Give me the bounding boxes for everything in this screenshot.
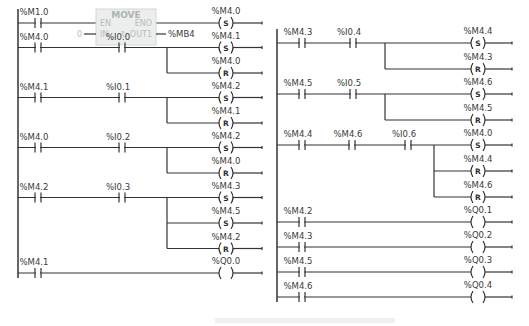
rung: %M4.4%M4.6%I0.6S%M4.0R%M4.4R%M4.6 [277, 128, 512, 203]
coil-type: S [223, 94, 228, 103]
no-contact[interactable]: %I0.6 [392, 129, 416, 150]
no-contact[interactable]: %M4.6 [284, 281, 313, 302]
coil[interactable]: %Q0.3 [464, 255, 492, 278]
move-block[interactable]: MOVEENENOIN↻ OUT10%MB4 [77, 9, 195, 45]
contact-address: %M4.3 [284, 231, 313, 241]
coil[interactable]: R%M4.0 [212, 156, 241, 179]
coil-address: %M4.0 [212, 6, 241, 16]
block-en: EN [100, 19, 111, 28]
coil-type: R [475, 193, 481, 202]
contact-address: %M4.5 [284, 256, 313, 266]
coil-address: %M4.6 [464, 180, 493, 190]
no-contact[interactable]: %M4.1 [20, 82, 49, 103]
rung: %M4.0%I0.2S%M4.2R%M4.0 [18, 131, 262, 180]
no-contact[interactable]: %M4.3 [284, 231, 313, 252]
coil-type: R [475, 167, 481, 176]
coil-address: %M4.0 [212, 156, 241, 166]
coil-type: S [223, 194, 228, 203]
coil-address: %Q0.2 [464, 230, 492, 240]
no-contact[interactable]: %M4.4 [284, 129, 313, 150]
no-contact[interactable]: %M4.5 [284, 256, 313, 277]
coil-address: %M4.0 [464, 128, 493, 138]
no-contact[interactable]: %I0.5 [337, 78, 361, 99]
coil[interactable]: S%M4.6 [464, 77, 493, 100]
rung: %M4.1%Q0.0 [18, 256, 262, 279]
contact-address: %I0.5 [337, 78, 361, 88]
coil[interactable]: R%M4.4 [464, 154, 493, 177]
coil[interactable]: R%M4.0 [212, 56, 241, 79]
coil[interactable]: S%M4.2 [212, 81, 241, 104]
coil-address: %M4.5 [212, 206, 241, 216]
coil-address: %M4.3 [212, 181, 241, 191]
coil-type: R [223, 245, 229, 254]
coil-address: %Q0.0 [212, 256, 240, 266]
coil[interactable]: S%M4.3 [212, 181, 241, 204]
contact-address: %M4.3 [284, 27, 313, 37]
coil-address: %M4.5 [464, 103, 493, 113]
coil[interactable]: R%M4.3 [464, 52, 493, 75]
coil[interactable]: R%M4.2 [212, 232, 241, 255]
coil[interactable]: %Q0.4 [464, 280, 492, 303]
coil[interactable]: S%M4.0 [464, 128, 493, 151]
coil-address: %M4.2 [212, 232, 241, 242]
coil-address: %Q0.3 [464, 255, 492, 265]
coil-address: %M4.2 [212, 81, 241, 91]
contact-address: %M4.4 [284, 129, 313, 139]
faint-caption [215, 318, 395, 323]
no-contact[interactable]: %M4.2 [20, 182, 49, 203]
left-network: %M1.0MOVEENENOIN↻ OUT10%MB4S%M4.0%M4.0%I… [18, 6, 262, 279]
contact-address: %M4.6 [334, 129, 363, 139]
rung: %M4.5%Q0.3 [277, 255, 512, 278]
coil[interactable]: S%M4.4 [464, 26, 493, 49]
contact-address: %M4.2 [284, 206, 313, 216]
no-contact[interactable]: %M4.2 [284, 206, 313, 227]
coil[interactable]: R%M4.5 [464, 103, 493, 126]
no-contact[interactable]: %M4.6 [334, 129, 363, 150]
right-network: %M4.3%I0.4S%M4.4R%M4.3%M4.5%I0.5S%M4.6R%… [277, 26, 512, 303]
rung: %M4.3%Q0.2 [277, 230, 512, 253]
contact-address: %I0.1 [106, 82, 130, 92]
coil[interactable]: %Q0.0 [212, 256, 240, 279]
coil[interactable]: R%M4.6 [464, 180, 493, 203]
no-contact[interactable]: %I0.2 [106, 132, 130, 153]
coil-type: R [223, 169, 229, 178]
coil[interactable]: S%M4.1 [212, 31, 241, 54]
block-eno: ENO [135, 19, 152, 28]
coil-address: %M4.1 [212, 106, 241, 116]
contact-address: %I0.4 [337, 27, 361, 37]
coil-type: S [475, 90, 480, 99]
no-contact[interactable]: %I0.1 [106, 82, 130, 103]
coil[interactable]: %Q0.1 [464, 205, 492, 228]
no-contact[interactable]: %M1.0 [20, 7, 49, 28]
coil[interactable]: S%M4.5 [212, 206, 241, 229]
block-in-value: 0 [77, 30, 82, 39]
no-contact[interactable]: %I0.3 [106, 182, 130, 203]
rung: %M4.1%I0.1S%M4.2R%M4.1 [18, 81, 262, 130]
rung: %M4.2%Q0.1 [277, 205, 512, 228]
no-contact[interactable]: %M4.5 [284, 78, 313, 99]
coil-type: S [475, 141, 480, 150]
no-contact[interactable]: %M4.1 [20, 257, 49, 278]
coil-type: S [223, 44, 228, 53]
coil-address: %M4.6 [464, 77, 493, 87]
block-out-value: %MB4 [168, 29, 195, 39]
no-contact[interactable]: %I0.4 [337, 27, 361, 48]
coil[interactable]: R%M4.1 [212, 106, 241, 129]
coil-address: %M4.4 [464, 26, 493, 36]
no-contact[interactable]: %M4.0 [20, 132, 49, 153]
contact-address: %M4.2 [20, 182, 49, 192]
coil-address: %M4.4 [464, 154, 493, 164]
coil-type: R [475, 116, 481, 125]
coil[interactable]: S%M4.0 [212, 6, 241, 29]
coil[interactable]: %Q0.2 [464, 230, 492, 253]
coil-type: S [475, 39, 480, 48]
coil-address: %Q0.4 [464, 280, 492, 290]
no-contact[interactable]: %M4.0 [20, 32, 49, 53]
no-contact[interactable]: %M4.3 [284, 27, 313, 48]
coil-type: S [223, 19, 228, 28]
coil-type: S [223, 219, 228, 228]
coil[interactable]: S%M4.2 [212, 131, 241, 154]
contact-address: %M4.6 [284, 281, 313, 291]
coil-type: S [223, 144, 228, 153]
contact-address: %I0.2 [106, 132, 130, 142]
